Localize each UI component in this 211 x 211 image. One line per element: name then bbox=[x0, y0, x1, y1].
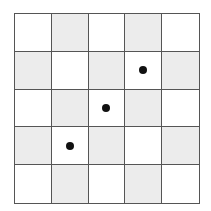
grid-cell-r0-c0 bbox=[15, 14, 52, 52]
grid-cell-r4-c1 bbox=[52, 165, 89, 203]
grid-cell-r4-c0 bbox=[15, 165, 52, 203]
grid-cell-r1-c4 bbox=[162, 52, 199, 90]
grid-cell-r3-c4 bbox=[162, 127, 199, 165]
grid-cell-r3-c0 bbox=[15, 127, 52, 165]
dot-marker bbox=[102, 104, 110, 112]
grid-cell-r1-c1 bbox=[52, 52, 89, 90]
dot-marker bbox=[66, 142, 74, 150]
grid-cell-r3-c1 bbox=[52, 127, 89, 165]
grid-cell-r2-c2 bbox=[89, 90, 126, 128]
grid-cell-r0-c4 bbox=[162, 14, 199, 52]
grid-cell-r0-c3 bbox=[125, 14, 162, 52]
grid-cell-r3-c2 bbox=[89, 127, 126, 165]
checkerboard-grid bbox=[14, 13, 200, 204]
grid-cell-r4-c4 bbox=[162, 165, 199, 203]
grid-cell-r0-c2 bbox=[89, 14, 126, 52]
grid-cell-r3-c3 bbox=[125, 127, 162, 165]
grid-cell-r1-c2 bbox=[89, 52, 126, 90]
grid-cell-r0-c1 bbox=[52, 14, 89, 52]
grid-cell-r2-c1 bbox=[52, 90, 89, 128]
grid-cell-r1-c3 bbox=[125, 52, 162, 90]
grid-cell-r4-c2 bbox=[89, 165, 126, 203]
grid-cell-r1-c0 bbox=[15, 52, 52, 90]
dot-marker bbox=[139, 66, 147, 74]
grid-cell-r2-c4 bbox=[162, 90, 199, 128]
grid-cell-r2-c3 bbox=[125, 90, 162, 128]
grid-cell-r2-c0 bbox=[15, 90, 52, 128]
grid-cell-r4-c3 bbox=[125, 165, 162, 203]
